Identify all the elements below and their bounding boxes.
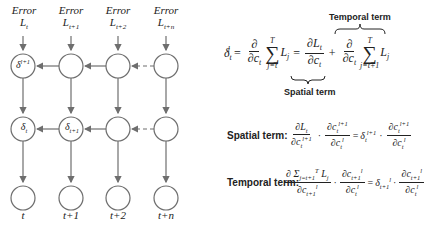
node-label-delta-t1-l: δt+1 xyxy=(60,121,84,134)
sum-j-t: T∑j=t xyxy=(265,37,279,69)
rnn-unrolled-diagram xyxy=(0,0,215,229)
time-label-t: t xyxy=(13,209,33,221)
spatial-row-label: Spatial term: xyxy=(227,130,288,141)
error-title: Error xyxy=(153,4,179,16)
frac-d-dc-2: ∂∂ct xyxy=(341,38,358,68)
node-row1-tn xyxy=(154,54,178,78)
frac-d-dc: ∂∂ct xyxy=(246,38,263,68)
time-label-tn: t+n xyxy=(153,209,179,221)
error-label-t: Error Lt xyxy=(11,4,37,31)
error-symbol: Lt+2 xyxy=(105,16,131,31)
error-symbol: Lt+1 xyxy=(58,16,84,31)
spatial-row-equation: ∂Lt∂ctl+1 · ∂ctl+1∂ctl = δtl+1 · ∂ctl+1∂… xyxy=(288,121,412,151)
main-equation: δtl = ∂∂ct T∑j=t Lj = ∂Lt∂ct + ∂∂ct T∑j=… xyxy=(224,37,389,70)
temporal-term-label: Temporal term xyxy=(329,12,391,22)
node-row1-t2 xyxy=(106,54,130,78)
time-label-t1: t+1 xyxy=(58,209,84,221)
error-label-t2: Error Lt+2 xyxy=(105,4,131,31)
delta-lhs: δtl xyxy=(224,45,230,62)
error-symbol: Lt xyxy=(11,16,37,31)
spatial-brace xyxy=(290,75,326,85)
node-row1-t1 xyxy=(59,54,83,78)
error-label-tn: Error Lt+n xyxy=(153,4,179,31)
node-label-delta-t-l: δt xyxy=(14,121,34,134)
error-label-t1: Error Lt+1 xyxy=(58,4,84,31)
sum-j-t1: T∑j=t+1 xyxy=(360,37,379,69)
node-label-delta-t-l1: δl+1 xyxy=(13,58,33,70)
error-title: Error xyxy=(58,4,84,16)
temporal-row-equation: ∂ Σj=t+1T Lj∂ct+1l · ∂ct+1l∂ctl = δt+1l … xyxy=(283,168,425,198)
temporal-brace xyxy=(334,23,386,35)
time-label-t2: t+2 xyxy=(105,209,131,221)
spatial-term-label: Spatial term xyxy=(284,87,336,97)
error-title: Error xyxy=(11,4,37,16)
error-symbol: Lt+n xyxy=(153,16,179,31)
frac-dLt-dc: ∂Lt∂ct xyxy=(305,37,324,70)
error-title: Error xyxy=(105,4,131,16)
